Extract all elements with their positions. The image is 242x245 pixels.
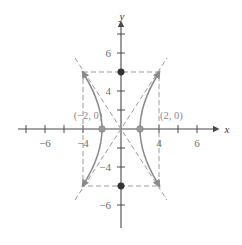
hyperbola-figure: −6 −4 4 6 6 4 −4 −6 (−2, 0) (2, 0) y x xyxy=(0,0,242,245)
y-tick-label-4: 4 xyxy=(106,85,112,97)
right-branch-lower xyxy=(140,129,157,182)
point-0-3 xyxy=(118,69,125,76)
y-tick-label-6: 6 xyxy=(106,47,112,59)
annotation-vertex-left: (−2, 0) xyxy=(74,110,103,122)
y-axis-label: y xyxy=(119,10,125,22)
y-tick-label-neg6: −6 xyxy=(99,199,111,211)
right-branch-upper xyxy=(140,76,157,129)
x-tick-label-neg6: −6 xyxy=(39,137,51,149)
annotation-vertex-right: (2, 0) xyxy=(160,110,183,122)
x-tick-label-4: 4 xyxy=(156,137,162,149)
y-tick-label-neg4: −4 xyxy=(99,161,111,173)
vertex-2-0 xyxy=(137,126,143,132)
graph-canvas: −6 −4 4 6 6 4 −4 −6 (−2, 0) (2, 0) y x xyxy=(0,0,242,245)
vertex-neg2-0 xyxy=(99,126,105,132)
x-tick-label-6: 6 xyxy=(194,137,200,149)
axes-group xyxy=(18,26,214,228)
left-branch-upper xyxy=(85,76,102,129)
x-tick-label-neg4: −4 xyxy=(77,137,89,149)
point-0-neg3 xyxy=(118,183,125,190)
x-axis-label: x xyxy=(224,123,230,135)
